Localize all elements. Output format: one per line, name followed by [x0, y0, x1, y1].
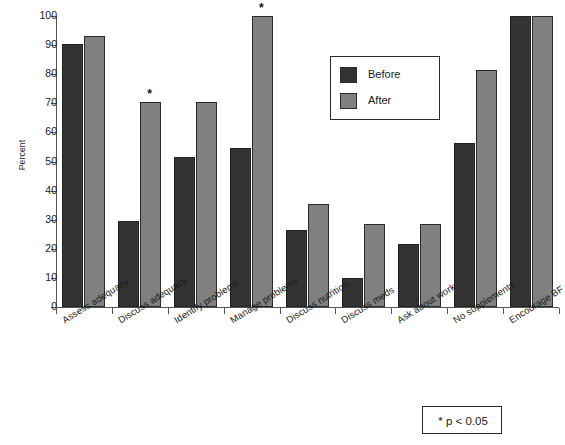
x-tick-mark [112, 308, 113, 314]
x-tick-mark [447, 308, 448, 314]
legend-label-after: After [368, 94, 391, 106]
bar-after [140, 102, 161, 307]
x-tick-mark [335, 308, 336, 314]
bar-after [476, 70, 497, 307]
bar-after [252, 16, 273, 307]
y-tick-label: 100 [31, 9, 57, 21]
y-tick-label: 30 [31, 213, 57, 225]
bar-after [196, 102, 217, 307]
y-axis-title: Percent [17, 115, 27, 195]
y-tick-label: 10 [31, 271, 57, 283]
y-tick: 50 [0, 162, 57, 163]
bar-before [510, 16, 531, 307]
bar-group [280, 16, 336, 307]
y-tick: 70 [0, 103, 57, 104]
x-tick-mark [559, 308, 560, 314]
bar-before [398, 244, 419, 307]
x-tick-mark [56, 308, 57, 314]
x-tick-mark [280, 308, 281, 314]
significance-note-text: * p < 0.05 [423, 407, 503, 435]
y-tick: 100 [0, 16, 57, 17]
bar-group [168, 16, 224, 307]
significance-star: * [259, 2, 264, 14]
y-tick: 0 [0, 307, 57, 308]
bar-group [447, 16, 503, 307]
bar-before [286, 230, 307, 307]
y-tick: 40 [0, 191, 57, 192]
y-tick: 10 [0, 278, 57, 279]
y-tick-label: 80 [31, 67, 57, 79]
bar-group [503, 16, 559, 307]
y-tick-label: 90 [31, 38, 57, 50]
significance-note-box: * p < 0.05 [422, 406, 502, 434]
dark-square-swatch-icon [340, 67, 357, 83]
y-tick: 30 [0, 220, 57, 221]
bar-group [56, 16, 112, 307]
x-tick-mark [168, 308, 169, 314]
x-tick-mark [391, 308, 392, 314]
gray-square-swatch-icon [340, 93, 357, 109]
y-tick-label: 20 [31, 242, 57, 254]
y-tick-label: 50 [31, 155, 57, 167]
bar-group: * [112, 16, 168, 307]
bar-after [532, 16, 553, 307]
bar-after [84, 36, 105, 307]
y-tick-label: 0 [31, 300, 57, 312]
y-tick: 90 [0, 45, 57, 46]
bar-before [118, 221, 139, 307]
plot-area: ** [56, 16, 559, 307]
legend-label-before: Before [368, 68, 400, 80]
x-tick-mark [224, 308, 225, 314]
bar-before [62, 44, 83, 307]
y-tick: 80 [0, 74, 57, 75]
y-tick-label: 60 [31, 125, 57, 137]
y-tick-label: 70 [31, 96, 57, 108]
x-tick-mark [503, 308, 504, 314]
y-tick-label: 40 [31, 184, 57, 196]
y-tick: 20 [0, 249, 57, 250]
y-tick: 60 [0, 132, 57, 133]
bar-before [454, 143, 475, 307]
significance-star: * [147, 88, 152, 100]
bar-group: * [224, 16, 280, 307]
legend: Before After [330, 56, 440, 120]
